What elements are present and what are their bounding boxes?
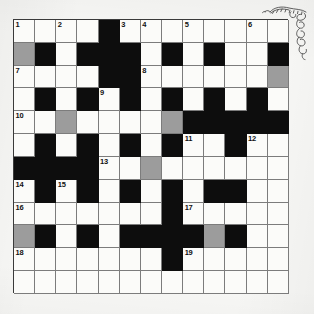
crossword-cell[interactable] — [14, 43, 35, 66]
crossword-cell[interactable] — [247, 225, 268, 248]
crossword-cell[interactable] — [141, 88, 162, 111]
crossword-cell[interactable] — [162, 157, 183, 180]
crossword-cell[interactable] — [247, 157, 268, 180]
crossword-cell[interactable] — [120, 203, 141, 226]
crossword-cell[interactable] — [99, 225, 120, 248]
crossword-cell[interactable] — [183, 157, 204, 180]
crossword-cell[interactable] — [162, 20, 183, 43]
crossword-cell[interactable] — [141, 203, 162, 226]
crossword-cell[interactable] — [141, 134, 162, 157]
crossword-cell-19[interactable] — [183, 248, 204, 271]
crossword-cell[interactable] — [268, 180, 289, 203]
crossword-cell[interactable] — [141, 271, 162, 294]
crossword-cell[interactable] — [268, 271, 289, 294]
crossword-cell[interactable] — [56, 271, 77, 294]
crossword-cell-9[interactable] — [99, 88, 120, 111]
crossword-cell[interactable] — [77, 111, 98, 134]
crossword-cell[interactable] — [268, 66, 289, 89]
crossword-cell[interactable] — [56, 248, 77, 271]
crossword-cell[interactable] — [204, 157, 225, 180]
crossword-cell[interactable] — [225, 66, 246, 89]
crossword-cell[interactable] — [247, 203, 268, 226]
crossword-cell[interactable] — [35, 203, 56, 226]
crossword-cell[interactable] — [56, 88, 77, 111]
crossword-cell[interactable] — [56, 203, 77, 226]
crossword-cell[interactable] — [162, 111, 183, 134]
crossword-cell[interactable] — [204, 66, 225, 89]
crossword-cell[interactable] — [183, 66, 204, 89]
crossword-cell[interactable] — [99, 271, 120, 294]
crossword-cell[interactable] — [247, 66, 268, 89]
crossword-cell-6[interactable] — [247, 20, 268, 43]
crossword-cell-12[interactable] — [247, 134, 268, 157]
crossword-cell-10[interactable] — [14, 111, 35, 134]
crossword-cell[interactable] — [56, 134, 77, 157]
crossword-cell[interactable] — [268, 248, 289, 271]
crossword-cell[interactable] — [268, 203, 289, 226]
crossword-cell[interactable] — [99, 134, 120, 157]
crossword-cell[interactable] — [56, 225, 77, 248]
crossword-cell[interactable] — [225, 20, 246, 43]
crossword-cell[interactable] — [247, 271, 268, 294]
crossword-cell[interactable] — [225, 88, 246, 111]
crossword-cell[interactable] — [247, 43, 268, 66]
crossword-cell[interactable] — [204, 225, 225, 248]
crossword-cell[interactable] — [162, 271, 183, 294]
crossword-cell[interactable] — [225, 271, 246, 294]
crossword-cell[interactable] — [247, 248, 268, 271]
crossword-cell[interactable] — [204, 248, 225, 271]
crossword-cell[interactable] — [141, 157, 162, 180]
crossword-cell[interactable] — [120, 157, 141, 180]
crossword-cell-1[interactable] — [14, 20, 35, 43]
crossword-cell[interactable] — [77, 248, 98, 271]
crossword-cell[interactable] — [14, 134, 35, 157]
crossword-cell[interactable] — [268, 225, 289, 248]
crossword-cell[interactable] — [99, 180, 120, 203]
crossword-cell[interactable] — [183, 43, 204, 66]
crossword-cell[interactable] — [204, 203, 225, 226]
crossword-cell[interactable] — [183, 180, 204, 203]
crossword-cell[interactable] — [120, 248, 141, 271]
crossword-cell[interactable] — [204, 20, 225, 43]
crossword-cell[interactable] — [77, 66, 98, 89]
crossword-cell[interactable] — [35, 20, 56, 43]
crossword-cell[interactable] — [225, 43, 246, 66]
crossword-cell[interactable] — [99, 248, 120, 271]
crossword-cell-3[interactable] — [120, 20, 141, 43]
crossword-cell[interactable] — [99, 111, 120, 134]
crossword-cell[interactable] — [162, 66, 183, 89]
crossword-cell[interactable] — [247, 180, 268, 203]
crossword-cell[interactable] — [56, 111, 77, 134]
crossword-cell[interactable] — [204, 271, 225, 294]
crossword-cell-8[interactable] — [141, 66, 162, 89]
crossword-cell[interactable] — [35, 111, 56, 134]
crossword-cell-14[interactable] — [14, 180, 35, 203]
crossword-cell[interactable] — [14, 88, 35, 111]
crossword-cell-15[interactable] — [56, 180, 77, 203]
crossword-cell-11[interactable] — [183, 134, 204, 157]
crossword-cell[interactable] — [35, 271, 56, 294]
crossword-cell[interactable] — [141, 248, 162, 271]
crossword-cell[interactable] — [120, 271, 141, 294]
crossword-cell[interactable] — [141, 43, 162, 66]
crossword-cell[interactable] — [77, 203, 98, 226]
crossword-cell[interactable] — [14, 271, 35, 294]
crossword-cell[interactable] — [204, 134, 225, 157]
crossword-cell[interactable] — [225, 248, 246, 271]
crossword-cell[interactable] — [56, 66, 77, 89]
crossword-grid-container[interactable] — [13, 19, 288, 293]
crossword-cell-16[interactable] — [14, 203, 35, 226]
crossword-cell[interactable] — [268, 88, 289, 111]
crossword-cell[interactable] — [268, 20, 289, 43]
crossword-cell[interactable] — [268, 157, 289, 180]
crossword-cell-7[interactable] — [14, 66, 35, 89]
crossword-cell[interactable] — [120, 111, 141, 134]
crossword-cell[interactable] — [56, 43, 77, 66]
crossword-cell[interactable] — [77, 271, 98, 294]
crossword-cell[interactable] — [35, 248, 56, 271]
crossword-cell[interactable] — [14, 225, 35, 248]
crossword-cell-2[interactable] — [56, 20, 77, 43]
crossword-cell[interactable] — [183, 88, 204, 111]
crossword-cell[interactable] — [225, 203, 246, 226]
crossword-cell[interactable] — [183, 271, 204, 294]
